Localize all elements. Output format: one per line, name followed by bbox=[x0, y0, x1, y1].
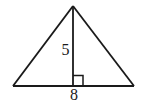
triangle-right-side bbox=[73, 6, 134, 86]
geometry-figure: 5 8 bbox=[0, 0, 141, 108]
right-angle-marker-icon bbox=[73, 76, 83, 87]
height-label: 5 bbox=[60, 42, 71, 58]
base-label: 8 bbox=[68, 87, 80, 103]
